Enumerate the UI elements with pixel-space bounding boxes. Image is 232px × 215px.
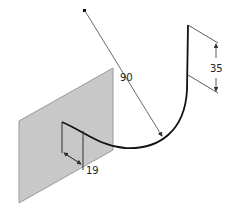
offset-dimension-label: 19 (86, 165, 99, 176)
work-plane[interactable] (19, 68, 113, 203)
height-dimension-label: 35 (210, 63, 223, 74)
height-dimension[interactable]: 35 (188, 25, 223, 93)
radius-dimension-label: 90 (120, 72, 133, 83)
sketch-canvas: 90 19 35 (0, 0, 232, 215)
